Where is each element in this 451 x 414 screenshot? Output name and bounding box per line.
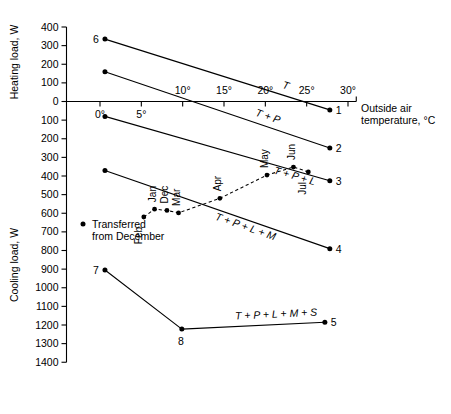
month-point-dec — [165, 208, 170, 213]
endpoint-label-5: 5 — [331, 316, 337, 328]
data-point — [102, 168, 107, 173]
data-point — [179, 327, 184, 332]
month-point-may — [265, 173, 270, 178]
y-tick-label-heating: 400 — [41, 21, 59, 33]
y-tick-label-cooling: 1200 — [35, 319, 59, 331]
y-axis-title-heating: Heating load, W — [8, 25, 20, 100]
series-annotation-1: T — [281, 78, 292, 92]
y-tick-label-heating: 0 — [53, 95, 59, 107]
data-point — [102, 268, 107, 273]
x-tick-label: 30° — [340, 84, 356, 96]
y-tick-label-cooling: 800 — [41, 244, 59, 256]
x-tick-label: 10° — [175, 84, 191, 96]
month-label-may: May — [259, 149, 270, 168]
y-tick-label-cooling: 400 — [41, 170, 59, 182]
month-label-mar: Mar — [171, 188, 182, 206]
month-label-jan: Jan — [147, 186, 158, 202]
y-axis-title-cooling: Cooling load, W — [8, 228, 20, 302]
endpoint-label-7: 7 — [93, 264, 99, 276]
y-tick-label-cooling: 1300 — [35, 337, 59, 349]
y-tick-label-cooling: 900 — [41, 263, 59, 275]
month-point-mar — [176, 210, 181, 215]
data-point — [327, 107, 332, 112]
y-tick-label-cooling: 1000 — [35, 281, 59, 293]
y-tick-label-cooling: 700 — [41, 225, 59, 237]
series-annotation-4: T + P + L + M — [214, 210, 278, 242]
data-point — [322, 320, 327, 325]
series-annotation-5: T + P + L + M + S — [235, 306, 318, 322]
month-label-apr: Apr — [212, 175, 223, 191]
x-tick-label: 15° — [216, 84, 232, 96]
series-line-1 — [105, 39, 330, 110]
load-temperature-chart: 4003002001000100200300400500600700800900… — [0, 0, 451, 414]
x-tick-label: 5° — [136, 108, 146, 120]
legend-label-line2: from December — [92, 230, 165, 242]
y-tick-label-heating: 300 — [41, 39, 59, 51]
endpoint-label-2: 2 — [336, 142, 342, 154]
y-tick-label-heating: 200 — [41, 58, 59, 70]
x-axis-title-line1: Outside air — [361, 102, 412, 114]
endpoint-label-4: 4 — [336, 243, 342, 255]
y-tick-label-cooling: 600 — [41, 207, 59, 219]
month-point-apr — [217, 196, 222, 201]
endpoint-label-8: 8 — [178, 335, 184, 347]
figure-root: 4003002001000100200300400500600700800900… — [0, 0, 451, 414]
series-annotation-2: T + P — [254, 106, 282, 126]
month-label-jun: Jun — [286, 144, 297, 160]
endpoint-label-6: 6 — [93, 33, 99, 45]
y-tick-label-cooling: 500 — [41, 188, 59, 200]
data-point — [327, 178, 332, 183]
endpoint-label-3: 3 — [336, 175, 342, 187]
month-label-dec: Dec — [159, 186, 170, 204]
legend-marker-icon — [81, 222, 86, 227]
y-tick-label-cooling: 1400 — [35, 356, 59, 368]
y-tick-label-heating: 100 — [41, 76, 59, 88]
y-tick-label-cooling: 100 — [41, 114, 59, 126]
x-axis-title-line2: temperature, °C — [361, 114, 436, 126]
series-line-5 — [105, 270, 325, 329]
endpoint-label-1: 1 — [336, 104, 342, 116]
x-tick-label: 25° — [299, 84, 315, 96]
y-tick-label-cooling: 300 — [41, 151, 59, 163]
y-tick-label-cooling: 1100 — [36, 300, 59, 312]
data-point — [102, 69, 107, 74]
month-point-jan — [152, 207, 157, 212]
data-point — [102, 114, 107, 119]
y-tick-label-cooling: 200 — [41, 132, 59, 144]
data-point — [327, 246, 332, 251]
legend-label-line1: Transferred — [92, 218, 146, 230]
data-point — [327, 146, 332, 151]
data-point — [102, 37, 107, 42]
